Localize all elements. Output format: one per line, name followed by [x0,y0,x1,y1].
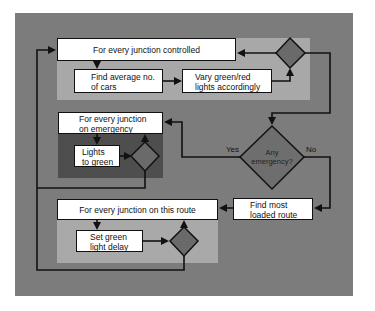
any-emergency-label-1: Any [246,148,298,157]
find-average-label-1: Find average no. [91,72,162,82]
junction-emergency-label-1: For every junction [79,114,162,124]
lights-green-label-2: to green [82,157,119,167]
junction-controlled-box: For every junction controlled [57,38,236,61]
decision-diamond-route-loop [170,227,198,256]
find-loaded-route-box: Find most loaded route [233,198,313,220]
find-loaded-label-1: Find most [250,200,312,210]
set-delay-box: Set green light delay [76,230,143,252]
any-emergency-label: Any emergency? [246,148,298,166]
lights-green-label-1: Lights [82,147,119,157]
junction-emergency-label-2: on emergency [79,124,162,134]
junction-emergency-box: For every junction on emergency [58,112,163,134]
no-edge-label: No [306,145,316,154]
decision-diamond-emergency-loop [131,142,159,171]
find-average-box: Find average no. of cars [74,69,163,93]
vary-lights-box: Vary green/red lights accordingly [182,69,272,93]
find-average-label-2: of cars [91,82,162,92]
set-delay-label-2: light delay [90,242,142,252]
vary-lights-label-2: lights accordingly [195,82,271,92]
find-loaded-label-2: loaded route [250,210,312,220]
junction-controlled-label: For every junction controlled [93,45,200,55]
flowchart: For every junction controlled Find avera… [0,0,375,311]
junction-route-label: For every junction on this route [79,205,196,215]
decision-diamond-controlled [276,38,305,68]
yes-edge-label: Yes [226,145,239,154]
junction-route-box: For every junction on this route [57,199,218,220]
any-emergency-label-2: emergency? [246,157,298,166]
set-delay-label-1: Set green [90,232,142,242]
vary-lights-label-1: Vary green/red [195,72,271,82]
lights-green-box: Lights to green [74,145,120,167]
